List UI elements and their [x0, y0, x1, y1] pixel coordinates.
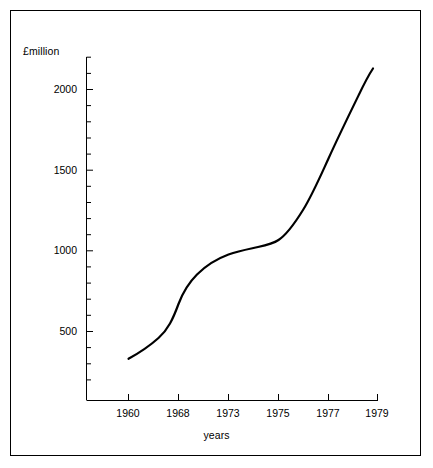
x-ticks: [129, 394, 378, 401]
y-major-ticks: [87, 90, 94, 332]
y-axis-title: £million: [23, 45, 59, 57]
data-line-spending: [129, 69, 374, 359]
y-tick-label-500: 500: [31, 325, 77, 337]
chart-figure: £million years 2000 1500 1000 500 1960 1…: [10, 10, 421, 456]
y-tick-label-1000: 1000: [31, 244, 77, 256]
chart-canvas: [11, 11, 422, 457]
x-tick-label-1979: 1979: [347, 407, 407, 419]
y-tick-label-1500: 1500: [31, 164, 77, 176]
y-tick-label-2000: 2000: [31, 83, 77, 95]
plot-area: [11, 11, 422, 457]
x-axis-title: years: [11, 429, 422, 441]
